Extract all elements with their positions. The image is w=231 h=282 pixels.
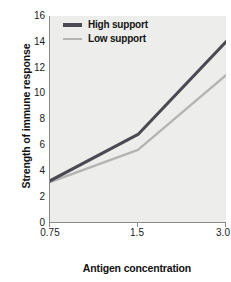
legend-label-low-support: Low support — [88, 34, 146, 44]
x-axis-title: Antigen concentration — [46, 262, 228, 274]
x-axis-tick-labels: 0.75 1.5 3.0 — [0, 228, 231, 244]
legend-swatch-low-support-icon — [63, 38, 82, 40]
plot-lines — [50, 16, 226, 222]
chart-legend: High support Low support — [63, 19, 148, 45]
legend-item-high-support: High support — [63, 19, 148, 31]
x-tick-label-3.0: 3.0 — [203, 228, 231, 238]
plot-area — [49, 16, 226, 223]
y-tick-label-2: 2 — [23, 192, 45, 202]
x-tick-label-1.5: 1.5 — [117, 228, 157, 238]
y-tick-label-8: 8 — [23, 114, 45, 124]
line-high-support — [50, 42, 226, 181]
y-tick-label-6: 6 — [23, 140, 45, 150]
y-tick-label-12: 12 — [23, 63, 45, 73]
legend-swatch-high-support-icon — [63, 23, 82, 26]
chart-figure: Strength of immune response 16 14 12 10 … — [0, 0, 231, 282]
y-tick-label-16: 16 — [23, 11, 45, 21]
y-tick-label-14: 14 — [23, 37, 45, 47]
legend-label-high-support: High support — [88, 20, 148, 30]
y-tick-label-10: 10 — [23, 88, 45, 98]
legend-item-low-support: Low support — [63, 33, 148, 45]
y-tick-label-4: 4 — [23, 166, 45, 176]
x-tick-label-0.75: 0.75 — [30, 228, 70, 238]
